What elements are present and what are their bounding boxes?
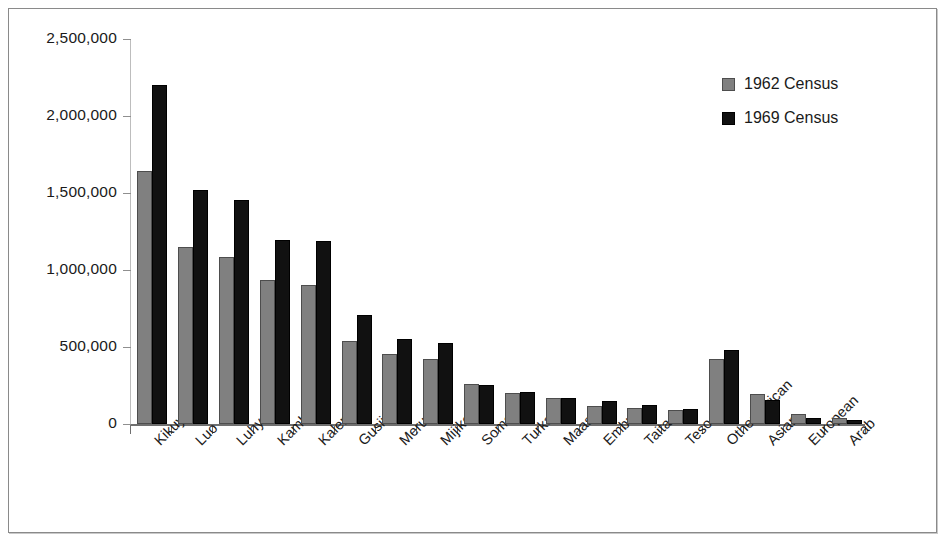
bar-1962	[546, 398, 561, 424]
bar-group	[464, 39, 497, 424]
bar-chart-plot-area: 2,500,0002,000,0001,500,0001,000,000500,…	[9, 9, 938, 534]
bar-1969	[152, 85, 167, 424]
bar-1969	[847, 420, 862, 424]
bar-1969	[683, 409, 698, 424]
legend-item: 1962 Census	[722, 67, 838, 101]
bar-1969	[479, 385, 494, 424]
bar-group	[219, 39, 252, 424]
bar-1969	[602, 401, 617, 424]
bar-1962	[382, 354, 397, 424]
bar-1969	[438, 343, 453, 424]
bar-1969	[193, 190, 208, 424]
y-axis-tick-label: 2,000,000	[9, 106, 117, 124]
bar-1962	[219, 257, 234, 424]
bar-1962	[791, 414, 806, 424]
bar-1962	[423, 359, 438, 424]
x-axis-tick-mark	[130, 426, 131, 434]
y-axis-tick-label: 500,000	[9, 337, 117, 355]
chart-figure-frame: 2,500,0002,000,0001,500,0001,000,000500,…	[8, 8, 937, 533]
legend-item: 1969 Census	[722, 101, 838, 135]
bar-1962	[301, 285, 316, 424]
bar-group	[137, 39, 170, 424]
bar-group	[668, 39, 701, 424]
bar-1962	[342, 341, 357, 424]
bar-1969	[806, 418, 821, 424]
bar-1962	[627, 408, 642, 424]
bar-group	[260, 39, 293, 424]
bar-1969	[561, 398, 576, 424]
y-axis-tick-label: 2,500,000	[9, 29, 117, 47]
bar-group	[178, 39, 211, 424]
y-axis-tick-mark	[123, 424, 131, 425]
bar-group	[546, 39, 579, 424]
legend-label: 1962 Census	[744, 75, 838, 93]
legend-label: 1969 Census	[744, 109, 838, 127]
y-axis-tick-label: 1,000,000	[9, 260, 117, 278]
bar-1969	[234, 200, 249, 424]
bar-1962	[178, 247, 193, 424]
bar-1969	[642, 405, 657, 424]
bar-1962	[709, 359, 724, 424]
bar-group	[423, 39, 456, 424]
y-axis-tick-label: 0	[9, 414, 117, 432]
bar-group	[342, 39, 375, 424]
bar-1969	[275, 240, 290, 424]
bar-1969	[316, 241, 331, 424]
bar-1969	[520, 392, 535, 424]
bar-1962	[668, 410, 683, 424]
bar-1969	[397, 339, 412, 424]
chart-legend: 1962 Census1969 Census	[722, 67, 838, 135]
bar-1962	[832, 418, 847, 424]
bar-1962	[587, 406, 602, 424]
bar-1962	[464, 384, 479, 424]
bar-1962	[137, 171, 152, 424]
bar-group	[627, 39, 660, 424]
bar-1962	[750, 394, 765, 424]
black-square-swatch	[722, 112, 735, 125]
bar-group	[382, 39, 415, 424]
y-axis-tick-label: 1,500,000	[9, 183, 117, 201]
bar-group	[587, 39, 620, 424]
gray-square-swatch	[722, 78, 735, 91]
bar-1962	[260, 280, 275, 424]
bar-1969	[765, 400, 780, 424]
bar-group	[301, 39, 334, 424]
bar-1962	[505, 393, 520, 424]
bar-1969	[357, 315, 372, 424]
bar-group	[505, 39, 538, 424]
bar-1969	[724, 350, 739, 424]
